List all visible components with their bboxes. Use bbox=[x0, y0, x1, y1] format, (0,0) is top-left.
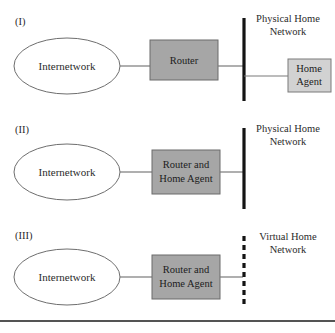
network-label-2-line2: Network bbox=[270, 136, 307, 147]
network-label-1-line2: Network bbox=[270, 26, 307, 37]
panel-1-label: (I) bbox=[15, 16, 26, 28]
router-home-agent-label-2-line2: Home Agent bbox=[159, 173, 212, 184]
router-home-agent-label-2-line1: Router and bbox=[163, 159, 210, 170]
router-home-agent-box-3 bbox=[152, 255, 220, 299]
internetwork-label-2: Internetwork bbox=[39, 166, 96, 178]
internetwork-label-1: Internetwork bbox=[39, 60, 96, 72]
panel-3: (III) Internetwork Router and Home Agent… bbox=[14, 230, 317, 306]
network-label-3-line1: Virtual Home bbox=[259, 231, 317, 242]
network-label-3-line2: Network bbox=[270, 244, 307, 255]
network-label-2-line1: Physical Home bbox=[256, 123, 320, 134]
panel-3-label: (III) bbox=[15, 230, 33, 242]
panel-2: (II) Internetwork Router and Home Agent … bbox=[14, 123, 320, 209]
panel-1: (I) Internetwork Router Physical Home Ne… bbox=[14, 13, 331, 101]
router-label-1: Router bbox=[170, 55, 199, 66]
router-home-agent-box-2 bbox=[152, 150, 220, 194]
network-label-1-line1: Physical Home bbox=[256, 13, 320, 24]
panel-2-label: (II) bbox=[15, 124, 29, 136]
router-home-agent-label-3-line2: Home Agent bbox=[159, 278, 212, 289]
router-home-agent-label-3-line1: Router and bbox=[163, 264, 210, 275]
home-agent-label-line1: Home bbox=[296, 63, 322, 74]
figure-container: (I) Internetwork Router Physical Home Ne… bbox=[0, 0, 335, 333]
home-agent-label-line2: Agent bbox=[296, 76, 322, 87]
internetwork-label-3: Internetwork bbox=[39, 271, 96, 283]
network-diagram: (I) Internetwork Router Physical Home Ne… bbox=[0, 0, 335, 333]
